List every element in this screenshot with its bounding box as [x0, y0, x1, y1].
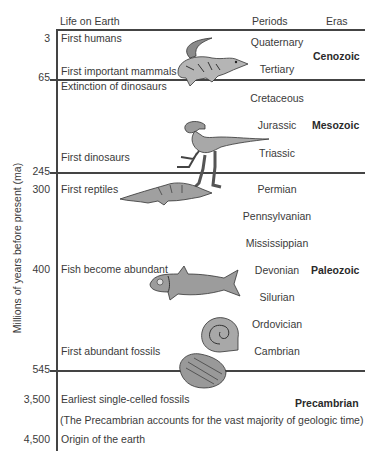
tick-65: [50, 79, 56, 81]
period-label: Cambrian: [227, 346, 327, 357]
era-label: Mesozoic: [312, 120, 359, 131]
event-label: First reptiles: [61, 184, 118, 195]
tick-545: [50, 370, 56, 372]
event-label: First dinosaurs: [61, 152, 130, 163]
year-label: 245: [6, 166, 50, 177]
fish-illustration: [148, 262, 244, 302]
event-note: (The Precambrian accounts for the vast m…: [60, 415, 363, 426]
header-life-on-earth: Life on Earth: [60, 16, 120, 27]
year-label: 400: [6, 264, 50, 275]
year-label: 3,500: [6, 394, 50, 405]
period-label: Ordovician: [227, 319, 327, 330]
year-label: 3: [6, 33, 50, 44]
header-periods: Periods: [252, 16, 288, 27]
year-label: 4,500: [6, 434, 50, 445]
period-label: Mississippian: [227, 238, 327, 249]
event-label: Earliest single-celled fossils: [61, 394, 189, 405]
era-label: Paleozoic: [311, 265, 359, 276]
timeline-axis: [56, 29, 58, 451]
era-label: Precambrian: [295, 398, 359, 409]
reptile-illustration: [118, 177, 214, 207]
header-eras: Eras: [326, 16, 348, 27]
trilobite-illustration: [174, 350, 230, 390]
era-label: Cenozoic: [313, 51, 360, 62]
event-label: First important mammals: [61, 66, 177, 77]
year-label: 65: [6, 72, 50, 83]
period-label: Cretaceous: [227, 93, 327, 104]
event-label: Origin of the earth: [61, 434, 145, 445]
period-label: Pennsylvanian: [227, 211, 327, 222]
boundary-top: [56, 29, 365, 31]
year-label: 300: [6, 184, 50, 195]
ammonite-illustration: [198, 314, 242, 354]
event-label: First abundant fossils: [61, 346, 160, 357]
event-label: First humans: [61, 33, 122, 44]
mammal-illustration: [172, 36, 252, 88]
event-label: Extinction of dinosaurs: [61, 81, 167, 92]
tick-245: [50, 172, 56, 174]
year-label: 545: [6, 364, 50, 375]
